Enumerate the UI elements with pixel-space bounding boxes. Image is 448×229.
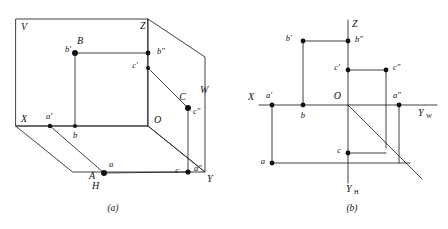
dot-b bbox=[73, 124, 77, 128]
caption-a: (a) bbox=[107, 203, 118, 214]
dot-a bbox=[101, 170, 107, 176]
diagram-b-group: Z X O Y W Y H b′ b″ c′ c″ a′ b a″ c a bbox=[247, 18, 437, 195]
dot-adoubleprime-b bbox=[397, 103, 402, 108]
dot-aprime-b bbox=[270, 103, 275, 108]
label-point-C-a: C bbox=[179, 91, 186, 102]
label-y-axis-a: Y bbox=[207, 173, 214, 184]
dot-b-b bbox=[301, 103, 306, 108]
label-aprime-b: a′ bbox=[266, 90, 272, 100]
label-cprime-a: c′ bbox=[132, 60, 138, 70]
label-cdoubleprime-a: c″ bbox=[193, 106, 201, 116]
label-yw-axis-b: Y W bbox=[418, 107, 433, 119]
label-adoubleprime-a: a″ bbox=[194, 163, 202, 173]
svg-text:Y: Y bbox=[346, 183, 353, 194]
svg-text:W: W bbox=[426, 112, 433, 119]
label-bdoubleprime-b: b″ bbox=[355, 34, 363, 44]
caption-b: (b) bbox=[346, 203, 357, 214]
label-cprime-b: c′ bbox=[334, 62, 340, 72]
dot-a-b bbox=[270, 161, 275, 166]
label-v-plane: V bbox=[21, 21, 29, 32]
label-bdoubleprime-a: b″ bbox=[157, 46, 165, 56]
label-point-b-b: b bbox=[301, 110, 306, 120]
label-adoubleprime-b: a″ bbox=[393, 90, 401, 100]
label-origin-b: O bbox=[334, 90, 341, 101]
label-w-plane: W bbox=[200, 84, 210, 95]
label-yh-axis-b: Y H bbox=[346, 183, 359, 195]
technical-drawing-svg: V Z W X O Y H B b′ b″ c′ C c″ a′ b a A c… bbox=[0, 0, 448, 229]
dot-cprime bbox=[146, 66, 150, 70]
label-h-plane: H bbox=[91, 180, 100, 191]
label-bprime-a: b′ bbox=[65, 44, 71, 54]
figure-container: V Z W X O Y H B b′ b″ c′ C c″ a′ b a A c… bbox=[0, 0, 448, 229]
dot-aprime bbox=[48, 124, 52, 128]
dot-cdoubleprime-b bbox=[384, 68, 389, 73]
label-point-b-a: b bbox=[73, 130, 78, 140]
dot-adoubleprime bbox=[185, 169, 190, 174]
diagram-a-group: V Z W X O Y H B b′ b″ c′ C c″ a′ b a A c… bbox=[16, 19, 214, 191]
dot-bdoubleprime-b bbox=[346, 39, 351, 44]
label-z-axis-b: Z bbox=[352, 18, 358, 29]
dot-cdoubleprime bbox=[185, 105, 191, 111]
dot-bdoubleprime bbox=[146, 51, 151, 56]
label-x-axis-b: X bbox=[247, 91, 255, 102]
forty-five-degree-bisector-b bbox=[348, 105, 422, 179]
label-point-a-b: a bbox=[261, 156, 265, 166]
label-aprime-a: a′ bbox=[46, 111, 52, 121]
label-origin-a: O bbox=[154, 114, 161, 125]
dot-cprime-b bbox=[346, 68, 351, 73]
svg-text:Y: Y bbox=[418, 107, 425, 118]
svg-text:H: H bbox=[354, 188, 359, 195]
label-x-axis-a: X bbox=[20, 113, 28, 124]
label-point-a-a: a bbox=[109, 159, 113, 169]
label-cdoubleprime-b: c″ bbox=[393, 62, 401, 72]
dot-bprime-bold bbox=[72, 50, 78, 56]
label-bprime-b: b′ bbox=[286, 33, 292, 43]
label-point-A-a: A bbox=[88, 170, 96, 181]
label-point-c-b: c bbox=[337, 145, 341, 155]
dot-c-b bbox=[346, 151, 351, 156]
dot-bprime-b bbox=[301, 39, 306, 44]
label-point-c-a: c bbox=[175, 165, 179, 175]
label-z-axis-a: Z bbox=[140, 20, 146, 31]
label-point-B-a: B bbox=[77, 35, 83, 46]
